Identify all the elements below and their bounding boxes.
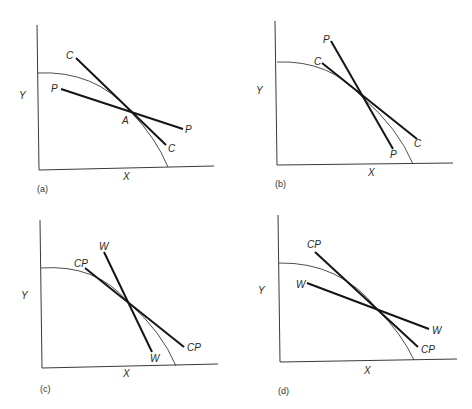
production-possibility-curve: [279, 263, 414, 360]
panel-caption: (b): [275, 179, 286, 189]
line-p-end-label: P: [185, 124, 192, 135]
x-axis: [39, 166, 214, 170]
x-axis-label: X: [122, 368, 130, 379]
x-axis: [42, 364, 218, 368]
line-cp: [315, 252, 418, 347]
line-w-end-label: W: [432, 325, 443, 336]
line-c: [76, 58, 166, 145]
line-cp-end-label: CP: [421, 344, 435, 355]
line-w: [307, 283, 429, 329]
x-axis-label: X: [367, 167, 375, 178]
line-w-start-label: W: [296, 279, 307, 290]
y-axis: [37, 25, 39, 170]
line-p-start-label: P: [51, 83, 58, 94]
panel-caption: (d): [278, 386, 289, 396]
line-cp-end-label: CP: [187, 342, 201, 353]
line-w-end-label: W: [150, 353, 161, 364]
panel-a: C P P C A Y X (a): [19, 25, 214, 194]
line-cp: [85, 268, 184, 347]
y-axis-label: Y: [256, 85, 264, 96]
x-axis: [280, 359, 457, 362]
y-axis-label: Y: [21, 290, 29, 301]
panel-d: CP W W CP Y X (d): [258, 215, 457, 396]
point-a-label: A: [121, 115, 129, 126]
y-axis: [275, 21, 277, 165]
line-w-start-label: W: [99, 241, 110, 252]
y-axis: [40, 220, 42, 368]
y-axis-label: Y: [258, 285, 266, 296]
figure-canvas: C P P C A Y X (a) P C C P Y X (b) W CP C…: [0, 0, 472, 409]
panel-c: W CP CP W Y X (c): [21, 220, 218, 394]
y-axis-label: Y: [19, 90, 27, 101]
line-p-end-label: P: [390, 149, 397, 160]
x-axis-label: X: [363, 365, 371, 376]
line-cp-start-label: CP: [74, 258, 88, 269]
line-c-start-label: C: [66, 50, 74, 61]
line-c-end-label: C: [168, 143, 176, 154]
line-p-start-label: P: [323, 34, 330, 45]
production-possibility-curve: [41, 268, 176, 366]
line-c-start-label: C: [314, 56, 322, 67]
line-c-end-label: C: [414, 138, 422, 149]
x-axis-label: X: [122, 171, 130, 182]
panel-caption: (a): [37, 184, 48, 194]
x-axis: [277, 163, 453, 165]
panel-b: P C C P Y X (b): [256, 21, 453, 189]
line-c: [322, 63, 417, 139]
panel-caption: (c): [40, 384, 51, 394]
y-axis: [278, 215, 280, 362]
line-cp-start-label: CP: [307, 239, 321, 250]
